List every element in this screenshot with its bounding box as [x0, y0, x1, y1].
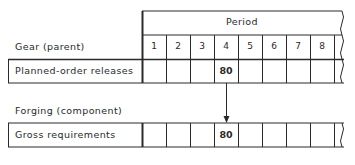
period-4: 4: [214, 41, 238, 51]
period-7: 7: [286, 41, 310, 51]
period-1: 1: [142, 41, 166, 51]
parent-section-label: Gear (parent): [15, 41, 85, 52]
component-value-p4: 80: [214, 129, 238, 140]
planned-order-releases-label: Planned-order releases: [15, 65, 133, 76]
gross-requirements-label: Gross requirements: [15, 129, 116, 140]
period-2: 2: [166, 41, 190, 51]
parent-value-p4: 80: [214, 65, 238, 76]
period-8: 8: [310, 41, 334, 51]
period-5: 5: [238, 41, 262, 51]
period-header: Period: [142, 16, 342, 27]
period-6: 6: [262, 41, 286, 51]
arrow-connector: [224, 83, 230, 123]
component-section-label: Forging (component): [15, 105, 122, 116]
period-3: 3: [190, 41, 214, 51]
